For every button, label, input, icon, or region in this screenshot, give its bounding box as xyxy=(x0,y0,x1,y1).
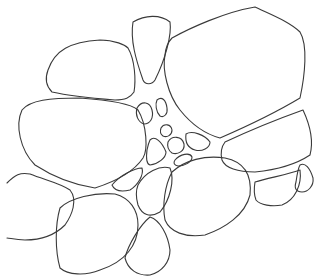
stone-small-5 xyxy=(186,133,210,151)
stone-small-8 xyxy=(112,168,142,191)
stone-right-middle xyxy=(221,110,311,172)
stone-middle-left xyxy=(19,98,146,188)
stone-line-drawing: line drawing of irregular rounded stone … xyxy=(0,0,327,280)
drawing-svg xyxy=(0,0,327,280)
stone-small-7 xyxy=(146,138,166,165)
stone-bottom-center xyxy=(125,217,170,275)
stone-small-2 xyxy=(156,98,167,116)
stone-small-3 xyxy=(160,125,172,137)
stone-small-1 xyxy=(136,103,152,124)
stone-top-left xyxy=(46,40,135,100)
stone-top-right-large xyxy=(164,7,305,138)
stone-right-small xyxy=(254,170,300,206)
stone-small-4 xyxy=(168,137,184,153)
stone-bottom-left-partial xyxy=(7,173,74,240)
stone-lower-right xyxy=(164,157,250,236)
